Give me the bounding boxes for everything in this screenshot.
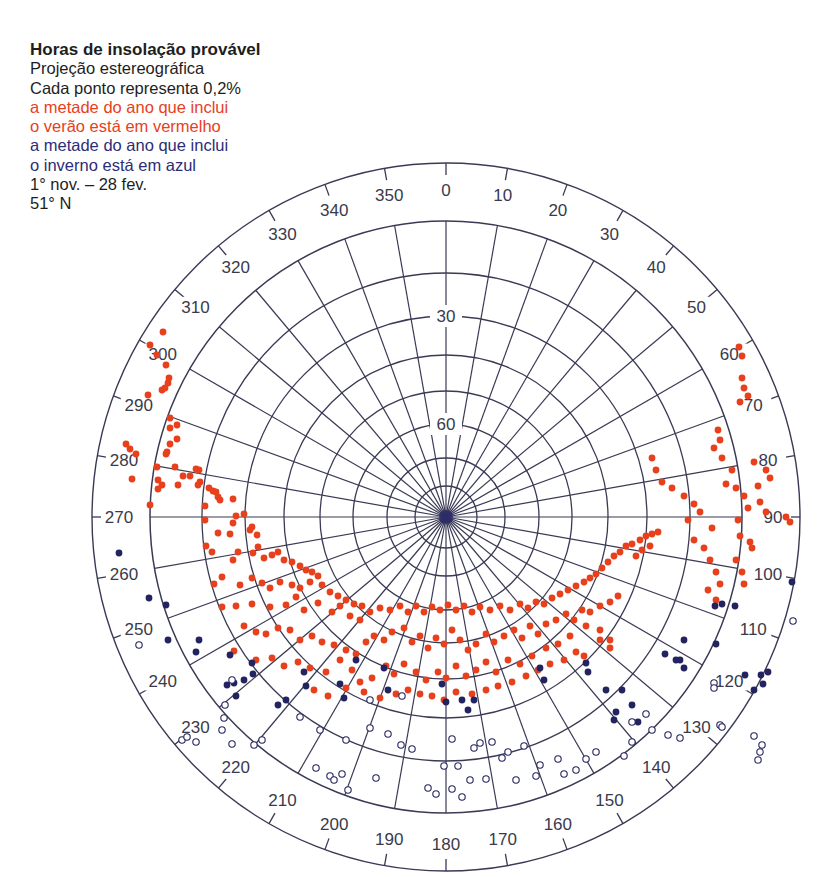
data-point [327,589,334,596]
data-point [723,481,730,488]
data-point [309,569,316,576]
data-point [165,637,172,644]
data-point [597,627,604,634]
data-point [421,609,428,616]
data-point [349,667,356,674]
data-point [629,702,636,709]
azimuth-label: 100 [754,565,782,584]
data-point [691,537,698,544]
data-point [605,559,612,566]
data-point [469,691,476,698]
data-point [691,501,698,508]
data-point [681,493,688,500]
data-point [733,485,740,492]
data-point-hollow [409,746,415,752]
data-point [747,539,754,546]
data-point-hollow [229,741,235,747]
data-point [713,569,720,576]
data-point-hollow [251,742,257,748]
data-point [159,387,166,394]
data-point-hollow [433,791,439,797]
data-point-hollow [513,777,519,783]
data-point [351,601,358,608]
data-point [405,687,412,694]
azimuth-tick [505,168,507,180]
data-point-hollow [449,736,455,742]
azimuth-label: 150 [595,791,623,810]
data-point [155,486,162,493]
data-point [267,604,274,611]
data-point-hollow [331,777,337,783]
data-point [733,557,740,564]
legend-winter-line2: o inverno está em azul [30,156,261,175]
data-point [471,697,478,704]
data-point [289,559,296,566]
data-point [717,581,724,588]
data-point [147,342,154,349]
data-point [307,665,314,672]
data-point [254,532,261,539]
data-point [745,505,752,512]
data-point [547,661,554,668]
azimuth-tick [617,210,623,220]
data-point [713,597,720,604]
data-point [541,677,548,684]
data-point [457,637,464,644]
data-point [611,553,618,560]
data-point [643,533,650,540]
data-point [405,609,412,616]
data-point [377,605,384,612]
data-point-hollow [467,777,473,783]
data-point [331,642,338,649]
data-point [760,681,767,688]
data-point [745,393,752,400]
data-point [495,683,502,690]
azimuth-label: 190 [375,830,403,849]
data-point [329,609,336,616]
data-point [209,549,216,556]
data-point [439,681,446,688]
azimuth-tick [325,838,329,849]
data-point [653,467,660,474]
data-point [669,485,676,492]
latitude-label: 51° N [30,194,261,213]
data-point [765,669,772,676]
data-point-hollow [711,685,717,691]
data-point [275,625,282,632]
data-point [381,637,388,644]
data-point [387,607,394,614]
azimuth-label: 20 [548,201,567,220]
data-point [557,591,564,598]
data-point [649,455,656,462]
data-point [163,362,170,369]
data-point [241,677,248,684]
data-point [633,553,640,560]
data-point [463,673,470,680]
data-point [211,581,218,588]
data-point [167,415,174,422]
data-point [409,639,416,646]
data-point [732,603,739,610]
data-point [283,602,290,609]
data-point [517,601,524,608]
azimuth-label: 330 [268,225,296,244]
data-point [413,669,420,676]
data-point [269,655,276,662]
data-point [377,695,384,702]
data-point [343,685,350,692]
data-point-hollow [621,753,627,759]
data-point [233,603,240,610]
data-point-hollow [455,763,461,769]
data-point [523,673,530,680]
data-point [599,565,606,572]
data-point [293,594,300,601]
azimuth-label: 200 [320,815,348,834]
data-point [425,645,432,652]
data-point-hollow [643,711,649,717]
data-point [583,660,590,667]
data-point [315,600,322,607]
azimuth-label: 300 [149,345,177,364]
data-point-hollow [751,733,757,739]
data-point [787,519,794,526]
data-point [196,637,203,644]
